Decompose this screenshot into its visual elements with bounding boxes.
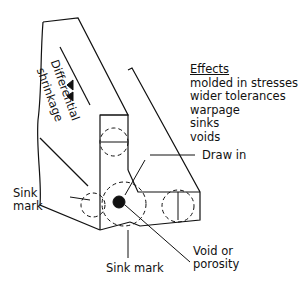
effect-item: wider tolerances [190, 90, 298, 104]
void-porosity-blob [113, 196, 125, 208]
effects-heading: Effects [190, 63, 298, 77]
effects-list: Effects molded in stresses wider toleran… [190, 63, 298, 144]
effect-item: warpage [190, 104, 298, 118]
sink-mark-bottom-label: Sink mark [106, 262, 164, 275]
effect-item: voids [190, 131, 298, 145]
void-label-2: porosity [193, 258, 239, 271]
draw-in-label: Draw in [202, 149, 246, 162]
left-sink-circle [81, 193, 105, 217]
effect-item: sinks [190, 117, 298, 131]
effect-item: molded in stresses [190, 77, 298, 91]
sink-mark-left-label-2: mark [13, 200, 43, 213]
